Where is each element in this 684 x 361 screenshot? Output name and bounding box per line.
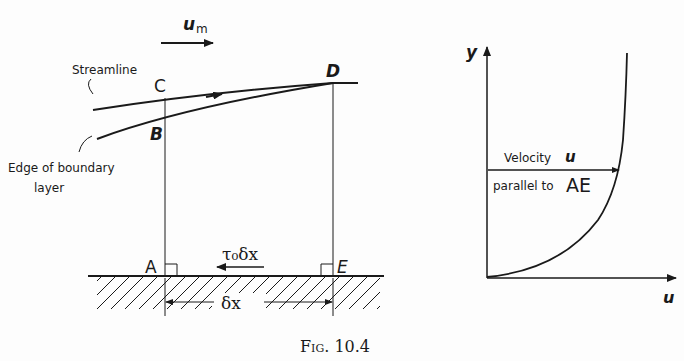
- velocity-profile-curve: [487, 53, 627, 277]
- velocity-profile-plot: y u Velocity u parallel to AE: [466, 42, 676, 307]
- point-e-label: E: [337, 257, 348, 277]
- boundary-edge-pointer: [79, 136, 92, 152]
- boundary-edge-label-line1: Edge of boundary: [8, 161, 115, 175]
- streamline-curve: [93, 83, 358, 110]
- parallel-ref-label: AE: [566, 174, 591, 196]
- right-angle-mark-a: [165, 264, 177, 276]
- x-axis-label: u: [663, 288, 674, 307]
- point-d-label: D: [326, 61, 340, 81]
- parallel-label: parallel to: [493, 179, 554, 193]
- boundary-layer-control-volume: u m Streamline Edge of boundary layer C …: [8, 14, 384, 316]
- shear-force-label: τ₀δx: [222, 244, 258, 264]
- y-axis-label: y: [466, 42, 478, 62]
- point-b-label: B: [150, 124, 163, 144]
- point-a-label: A: [145, 257, 157, 277]
- figure-canvas: u m Streamline Edge of boundary layer C …: [0, 0, 684, 361]
- free-stream-subscript: m: [196, 22, 208, 36]
- velocity-symbol: u: [565, 148, 576, 166]
- length-label: δx: [221, 293, 241, 313]
- free-stream-velocity-label: u: [183, 14, 195, 34]
- boundary-layer-edge-curve: [97, 83, 333, 139]
- velocity-label: Velocity: [504, 151, 551, 165]
- streamline-label: Streamline: [72, 63, 137, 77]
- figure-caption: Fig. 10.4: [300, 337, 370, 356]
- right-angle-mark-e: [321, 264, 333, 276]
- boundary-edge-label-line2: layer: [34, 181, 64, 195]
- point-c-label: C: [154, 76, 166, 96]
- streamline-pointer: [88, 79, 93, 94]
